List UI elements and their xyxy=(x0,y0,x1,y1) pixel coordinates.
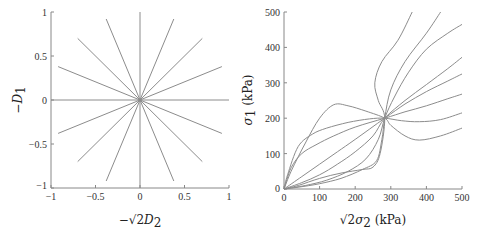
series-line xyxy=(140,38,202,100)
left-y-axis-label: −D1 xyxy=(11,86,28,113)
left-ytick-label: 0.5 xyxy=(35,51,48,62)
left-ytick-label: −0.5 xyxy=(29,139,47,150)
left-xtick-label: −0.5 xyxy=(86,191,104,202)
right-ytick-label: 200 xyxy=(265,113,280,124)
right-plot: 0 100 200 300 400 500 500 400 300 200 10… xyxy=(241,7,470,230)
right-x-axis-label: √2σ2 (kPa) xyxy=(340,213,406,230)
right-xtick-label: 100 xyxy=(312,192,327,203)
figure: −1 −0.5 0 0.5 1 1 0.5 0 −0.5 −1 −√2D2 −D… xyxy=(0,0,479,233)
left-xtick-label: 0 xyxy=(138,191,143,202)
series-line xyxy=(78,100,140,162)
series-line xyxy=(284,74,462,189)
right-xtick-label: 300 xyxy=(383,192,398,203)
series-line xyxy=(140,100,202,162)
series-line xyxy=(284,113,462,189)
right-xtick-label: 200 xyxy=(348,192,363,203)
left-plot: −1 −0.5 0 0.5 1 1 0.5 0 −0.5 −1 −√2D2 −D… xyxy=(11,7,232,230)
right-ytick-label: 300 xyxy=(265,78,280,89)
right-xtick-label: 0 xyxy=(282,192,287,203)
right-y-axis-label: σ1 (kPa) xyxy=(241,75,258,126)
series-line xyxy=(284,104,462,189)
right-ytick-label: 0 xyxy=(275,183,280,194)
left-xtick-label: 0.5 xyxy=(178,191,191,202)
right-plot-curves xyxy=(284,12,462,189)
left-ytick-label: −1 xyxy=(36,180,47,191)
left-ytick-label: 1 xyxy=(42,7,47,18)
left-xtick-label: 1 xyxy=(227,191,232,202)
series-line xyxy=(284,94,462,189)
series-line xyxy=(78,38,140,100)
right-xtick-label: 500 xyxy=(455,192,470,203)
right-ytick-label: 100 xyxy=(265,149,280,160)
right-xtick-label: 400 xyxy=(419,192,434,203)
series-line xyxy=(284,57,462,189)
right-ytick-label: 400 xyxy=(265,42,280,53)
left-plot-rays xyxy=(51,12,229,188)
left-x-axis-label: −√2D2 xyxy=(119,213,162,230)
left-ytick-label: 0 xyxy=(42,95,47,106)
right-ytick-label: 500 xyxy=(265,7,280,18)
left-xtick-label: −1 xyxy=(46,191,57,202)
